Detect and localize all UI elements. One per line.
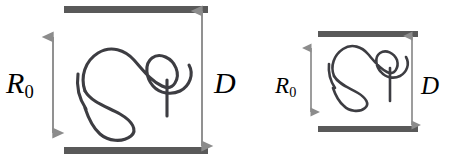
plate-gap-label-right-text: D xyxy=(421,72,439,99)
plate-gap-label-right: D xyxy=(421,73,439,98)
coil-radius-label-left: R0 xyxy=(6,68,34,98)
coil-radius-label-left-text: R xyxy=(6,66,24,99)
polymer-chain-left xyxy=(77,49,191,140)
compressed-coil-panel xyxy=(311,31,418,132)
coil-radius-label-left-subscript: 0 xyxy=(25,81,34,102)
polymer-chain-right xyxy=(329,46,408,111)
bottom-plate-left xyxy=(64,147,208,154)
plate-gap-label-left-text: D xyxy=(214,66,236,99)
plate-gap-label-left: D xyxy=(214,68,236,98)
coil-radius-label-right-text: R xyxy=(275,73,289,98)
figure-canvas: R0 D R0 D xyxy=(0,0,450,156)
top-plate-left xyxy=(64,6,208,13)
unconfined-coil-panel xyxy=(53,6,208,154)
coil-radius-label-right: R0 xyxy=(275,74,296,97)
bottom-plate-right xyxy=(318,126,418,132)
top-plate-right xyxy=(318,31,418,37)
coil-radius-label-right-subscript: 0 xyxy=(289,84,296,100)
